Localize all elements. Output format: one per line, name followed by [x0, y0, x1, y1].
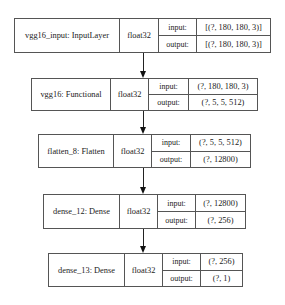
layer-dtype: float32: [125, 254, 163, 286]
edge-line: [143, 229, 144, 247]
arrowhead-icon: [140, 246, 146, 253]
output-row: output: (?, 12800): [152, 151, 250, 168]
node-dense-13: dense_13: Dense float32 input: (?, 256) …: [48, 253, 243, 287]
output-label: output:: [158, 212, 196, 228]
input-shape: [(?, 180, 180, 3)]: [197, 19, 270, 35]
input-shape: (?, 256): [201, 254, 242, 270]
io-table: input: (?, 180, 180, 3) output: (?, 5, 5…: [149, 79, 257, 110]
output-label: output:: [159, 36, 197, 52]
input-row: input: (?, 180, 180, 3): [149, 79, 257, 94]
io-table: input: (?, 12800) output: (?, 256): [158, 195, 245, 228]
node-dense-12: dense_12: Dense float32 input: (?, 12800…: [43, 194, 246, 229]
layer-name: dense_13: Dense: [49, 254, 125, 286]
layer-dtype: float32: [114, 135, 152, 167]
edge-line: [143, 168, 144, 188]
input-row: input: (?, 5, 5, 512): [152, 135, 250, 151]
arrowhead-icon: [140, 71, 146, 78]
io-table: input: (?, 5, 5, 512) output: (?, 12800): [152, 135, 250, 167]
output-label: output:: [163, 271, 201, 287]
output-row: output: (?, 5, 5, 512): [149, 94, 257, 110]
input-row: input: [(?, 180, 180, 3)]: [159, 19, 270, 35]
arrowhead-icon: [140, 187, 146, 194]
layer-name: vgg16: Functional: [32, 79, 111, 110]
edge-line: [143, 111, 144, 128]
input-shape: (?, 5, 5, 512): [191, 135, 250, 151]
output-row: output: (?, 256): [158, 211, 245, 228]
layer-name: vgg16_input: InputLayer: [15, 19, 120, 52]
input-label: input:: [149, 79, 189, 94]
input-label: input:: [158, 195, 196, 211]
input-shape: (?, 12800): [196, 195, 245, 211]
input-row: input: (?, 256): [163, 254, 242, 270]
layer-name: dense_12: Dense: [44, 195, 120, 228]
input-label: input:: [163, 254, 201, 270]
edge-line: [143, 53, 144, 72]
output-row: output: (?, 1): [163, 270, 242, 287]
input-label: input:: [152, 135, 191, 151]
layer-dtype: float32: [120, 19, 159, 52]
input-shape: (?, 180, 180, 3): [189, 79, 257, 94]
node-flatten-8: flatten_8: Flatten float32 input: (?, 5,…: [38, 134, 251, 168]
io-table: input: (?, 256) output: (?, 1): [163, 254, 242, 286]
output-shape: (?, 256): [196, 212, 245, 228]
layer-dtype: float32: [120, 195, 158, 228]
output-row: output: [(?, 180, 180, 3)]: [159, 35, 270, 52]
arrowhead-icon: [140, 127, 146, 134]
output-label: output:: [152, 152, 191, 168]
input-row: input: (?, 12800): [158, 195, 245, 211]
layer-name: flatten_8: Flatten: [39, 135, 114, 167]
layer-dtype: float32: [111, 79, 149, 110]
node-vgg16-input: vgg16_input: InputLayer float32 input: […: [14, 18, 271, 53]
output-shape: (?, 1): [201, 271, 242, 287]
output-shape: (?, 5, 5, 512): [189, 95, 257, 110]
node-vgg16: vgg16: Functional float32 input: (?, 180…: [31, 78, 258, 111]
io-table: input: [(?, 180, 180, 3)] output: [(?, 1…: [159, 19, 270, 52]
output-shape: (?, 12800): [191, 152, 250, 168]
input-label: input:: [159, 19, 197, 35]
output-label: output:: [149, 95, 189, 110]
output-shape: [(?, 180, 180, 3)]: [197, 36, 270, 52]
